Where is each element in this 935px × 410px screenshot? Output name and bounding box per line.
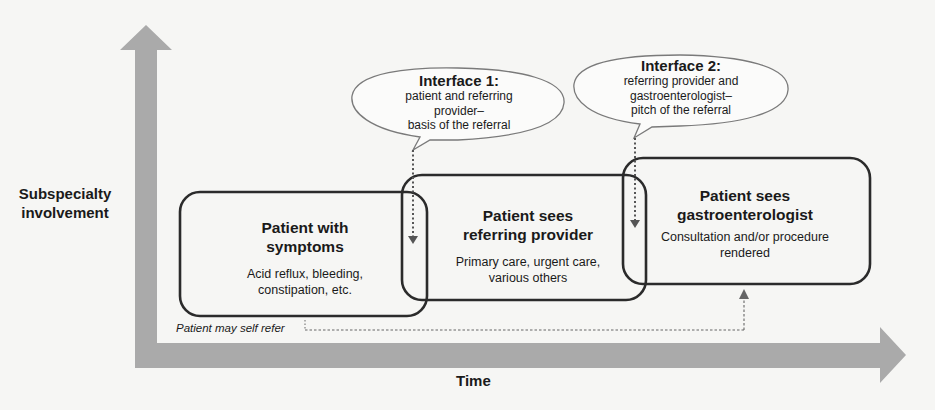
interface-1-title: Interface 1: bbox=[356, 72, 562, 89]
stage-2-title-line1: Patient sees bbox=[414, 206, 642, 225]
interface-1-line2: provider– bbox=[356, 104, 562, 119]
interface-1-line3: basis of the referral bbox=[356, 118, 562, 133]
interface-2-line3: pitch of the referral bbox=[578, 103, 784, 118]
stage-3-subtitle-line2: rendered bbox=[640, 245, 850, 261]
x-axis-label: Time bbox=[456, 372, 491, 389]
stage-2-text: Patient sees referring provider Primary … bbox=[414, 206, 642, 286]
interface-1-text: Interface 1: patient and referring provi… bbox=[356, 72, 562, 133]
interface-1-line1: patient and referring bbox=[356, 89, 562, 104]
interface-2-line2: gastroenterologist– bbox=[578, 89, 784, 104]
stage-2-subtitle-line1: Primary care, urgent care, bbox=[414, 254, 642, 270]
stage-2-subtitle-line2: various others bbox=[414, 270, 642, 286]
self-refer-label: Patient may self refer bbox=[176, 322, 285, 334]
stage-1-text: Patient with symptoms Acid reflux, bleed… bbox=[190, 218, 420, 298]
y-axis-arrow bbox=[120, 25, 172, 368]
stage-3-title-line2: gastroenterologist bbox=[640, 205, 850, 224]
stage-1-title-line1: Patient with bbox=[190, 218, 420, 237]
interface-2-title: Interface 2: bbox=[578, 57, 784, 74]
x-axis-arrow bbox=[135, 327, 906, 383]
y-axis-label-line2: involvement bbox=[4, 203, 126, 222]
stage-3-text: Patient sees gastroenterologist Consulta… bbox=[640, 186, 850, 261]
stage-3-subtitle-line1: Consultation and/or procedure bbox=[640, 229, 850, 245]
y-axis-label-line1: Subspecialty bbox=[4, 184, 126, 203]
y-axis-label: Subspecialty involvement bbox=[4, 184, 126, 222]
stage-1-title-line2: symptoms bbox=[190, 237, 420, 256]
interface-2-text: Interface 2: referring provider and gast… bbox=[578, 57, 784, 118]
stage-1-subtitle-line1: Acid reflux, bleeding, bbox=[190, 266, 420, 282]
stage-2-title-line2: referring provider bbox=[414, 225, 642, 244]
stage-1-subtitle-line2: constipation, etc. bbox=[190, 282, 420, 298]
stage-3-title-line1: Patient sees bbox=[640, 186, 850, 205]
interface-2-line1: referring provider and bbox=[578, 74, 784, 89]
